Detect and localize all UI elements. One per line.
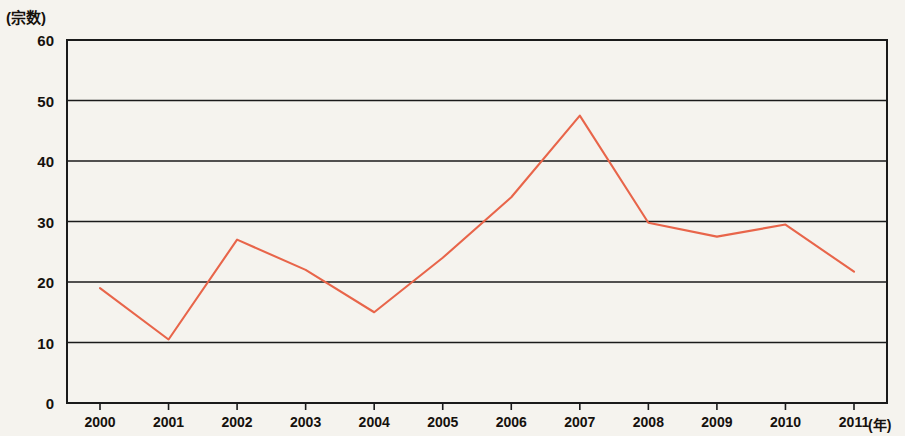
x-axis-tick-label: 2003 [290, 414, 321, 430]
y-axis-tick-label: 0 [0, 395, 54, 412]
y-axis-tick-label: 20 [0, 274, 54, 291]
x-axis-tick-label: 2006 [496, 414, 527, 430]
x-axis-tick-label: 2004 [359, 414, 390, 430]
x-axis-unit-label: (年) [868, 414, 891, 434]
x-axis-tick-label: 2002 [222, 414, 253, 430]
x-axis-tick-label: 2001 [153, 414, 184, 430]
x-axis-tick-label: 2009 [701, 414, 732, 430]
line-chart: (宗数) 0102030405060 200020012002200320042… [0, 0, 905, 436]
x-axis-tick-label: 2011 [839, 414, 869, 430]
gridlines [67, 101, 887, 343]
y-axis-tick-label: 10 [0, 334, 54, 351]
y-axis-tick-label: 40 [0, 153, 54, 170]
x-axis-tick-label: 2005 [427, 414, 458, 430]
y-axis-tick-label: 30 [0, 213, 54, 230]
x-axis-tick-label: 2010 [770, 414, 801, 430]
x-axis-tick-label: 2000 [84, 414, 115, 430]
y-axis-tick-label: 50 [0, 92, 54, 109]
plot-area [0, 0, 905, 436]
x-axis-tick-marks [100, 403, 854, 410]
y-axis-tick-label: 60 [0, 32, 54, 49]
x-axis-tick-label: 2007 [564, 414, 595, 430]
x-axis-tick-label: 2008 [633, 414, 664, 430]
data-series-line [100, 116, 854, 340]
